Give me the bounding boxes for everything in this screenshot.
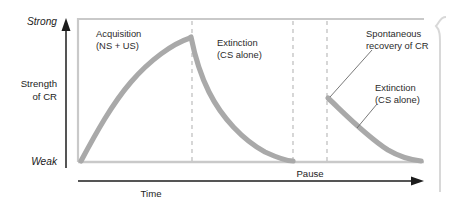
y-axis-title-line1: Strength — [21, 78, 57, 89]
annotation-extinction-2-line2: (CS alone) — [375, 94, 420, 105]
annotation-acquisition-line1: Acquisition — [96, 28, 141, 39]
annotation-spontaneous-recovery-line1: Spontaneous — [366, 28, 422, 39]
y-axis-bottom-label: Weak — [31, 156, 58, 167]
annotation-spontaneous-recovery-line2: recovery of CR — [366, 40, 429, 51]
annotation-acquisition-line2: (NS + US) — [96, 40, 139, 51]
figure-svg: Strong Weak Strength of CR Time Acquisit… — [0, 0, 462, 209]
annotation-pause: Pause — [296, 168, 323, 179]
annotation-extinction-2-line1: Extinction — [375, 82, 416, 93]
y-axis-top-label: Strong — [27, 16, 57, 27]
annotation-extinction-1-line1: Extinction — [217, 37, 258, 48]
x-axis-label: Time — [141, 188, 162, 199]
classical-conditioning-figure: Strong Weak Strength of CR Time Acquisit… — [0, 0, 462, 209]
y-axis-title-line2: of CR — [32, 91, 57, 102]
annotation-extinction-1-line2: (CS alone) — [217, 49, 262, 60]
